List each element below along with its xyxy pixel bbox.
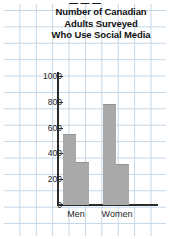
x-axis-label-women: Women — [96, 208, 138, 220]
y-tick-label-400: 400 — [18, 148, 62, 158]
y-tick-label-0: 0 — [18, 200, 62, 210]
y-tick-mark-800 — [59, 102, 63, 103]
bar-women-series1 — [103, 104, 116, 205]
y-tick-label-600: 600 — [18, 123, 62, 133]
y-tick-label-800: 800 — [18, 97, 62, 107]
y-tick-label-1000: 1000 — [18, 71, 62, 81]
x-axis-label-men: Men — [58, 208, 94, 220]
plot-area: 1000 800 600 400 200 0 Men Women — [0, 0, 170, 239]
y-tick-label-200: 200 — [18, 174, 62, 184]
chart-page: ― ― ― Number of Canadian Adults Surveyed… — [0, 0, 170, 239]
y-tick-mark-1000 — [59, 76, 63, 77]
y-tick-mark-600 — [59, 128, 63, 129]
bar-men-series2 — [76, 162, 89, 205]
bar-men-series1 — [63, 134, 76, 205]
bar-women-series2 — [116, 164, 129, 205]
y-axis-line — [57, 72, 59, 206]
